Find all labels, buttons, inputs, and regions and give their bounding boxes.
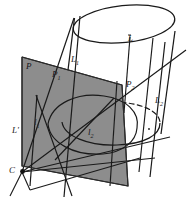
generator-line-L2-companion (139, 38, 153, 172)
label-chord-l1: l1 (34, 118, 40, 129)
label-trace-L-prime: L' (12, 126, 19, 135)
base-line-C-to-lower-vertex (22, 172, 30, 190)
base-line-C-down-left (10, 172, 22, 196)
label-point-P1: P1 (52, 70, 61, 81)
generator-line-L2 (150, 42, 165, 177)
label-generator-L1: L1 (71, 55, 79, 66)
label-point-P2: P2 (126, 80, 135, 91)
generator-line-L (124, 37, 130, 113)
cylinder-top-ellipse (71, 0, 176, 47)
label-generator-L2: L2 (155, 96, 163, 107)
cylinder-right-contour (161, 31, 175, 134)
tangency-point-lower-right (148, 128, 150, 130)
apex-point-C-marker (20, 169, 25, 174)
label-chord-l2: l2 (88, 128, 94, 139)
figure-canvas (0, 0, 187, 214)
geometry-figure: P P1 P2 L L1 L2 L' l1 l2 C (0, 0, 187, 214)
label-generator-L: L (128, 34, 133, 43)
label-plane-P: P (26, 62, 32, 71)
label-apex-C: C (9, 166, 15, 175)
